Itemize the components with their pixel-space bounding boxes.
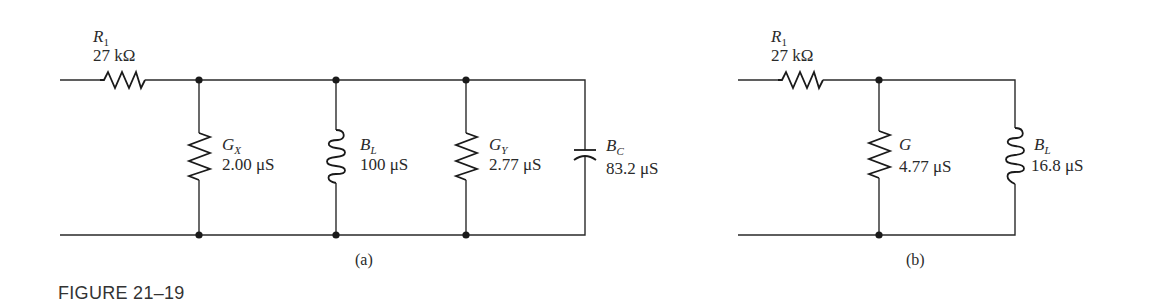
junction-node xyxy=(332,76,339,83)
wire-top-rail-b xyxy=(823,80,1015,128)
resistor-r1-a-icon xyxy=(100,72,145,88)
wire-bottom-rail-b xyxy=(738,184,1015,235)
caption-a: (a) xyxy=(355,251,373,269)
resistor-r1-b-icon xyxy=(778,72,823,88)
bl-a-symbol-label: BL xyxy=(360,135,377,156)
junction-node xyxy=(195,76,202,83)
resistor-gx-icon xyxy=(189,133,210,180)
bl-b-value-label: 16.8 μS xyxy=(1031,156,1084,175)
gx-value-label: 2.00 μS xyxy=(222,155,275,174)
inductor-bl-b-icon xyxy=(1006,128,1024,184)
junction-node xyxy=(332,231,339,238)
resistor-g-icon xyxy=(869,131,890,178)
bl-a-value-label: 100 μS xyxy=(360,155,408,174)
r1-a-symbol-label: R1 xyxy=(92,27,109,48)
bc-symbol-label: BC xyxy=(606,136,624,157)
circuit-b: R1 27 kΩ G 4.77 μS BL 16.8 μS (b) xyxy=(738,27,1084,269)
g-value-label: 4.77 μS xyxy=(899,157,952,176)
junction-node xyxy=(875,76,882,83)
gy-value-label: 2.77 μS xyxy=(489,155,542,174)
junction-node xyxy=(875,231,882,238)
inductor-bl-a-icon xyxy=(327,130,345,183)
r1-b-symbol-label: R1 xyxy=(770,27,787,48)
junction-node xyxy=(462,76,469,83)
r1-a-value-label: 27 kΩ xyxy=(93,46,135,65)
bc-value-label: 83.2 μS xyxy=(606,159,659,178)
figure-title: FIGURE 21–19 xyxy=(58,283,185,303)
r1-b-value-label: 27 kΩ xyxy=(771,46,813,65)
circuit-a: R1 27 kΩ GX 2.00 μS BL 100 μS GY 2.77 μS… xyxy=(60,27,659,269)
figure-canvas: R1 27 kΩ GX 2.00 μS BL 100 μS GY 2.77 μS… xyxy=(0,0,1155,308)
junction-node xyxy=(462,231,469,238)
g-symbol-label: G xyxy=(899,135,911,154)
caption-b: (b) xyxy=(906,251,925,269)
resistor-gy-icon xyxy=(456,133,477,180)
gx-symbol-label: GX xyxy=(222,135,242,156)
gy-symbol-label: GY xyxy=(489,135,509,156)
junction-node xyxy=(195,231,202,238)
bl-b-symbol-label: BL xyxy=(1034,135,1051,156)
